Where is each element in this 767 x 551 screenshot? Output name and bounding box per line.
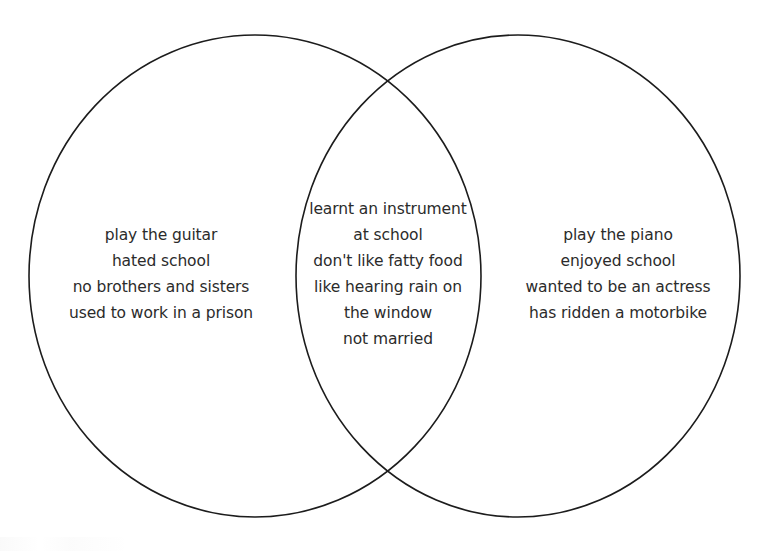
intersection-line: the window <box>292 300 484 326</box>
right-set-line: play the piano <box>496 222 740 248</box>
intersection-line: not married <box>292 326 484 352</box>
intersection-line: like hearing rain on <box>292 274 484 300</box>
right-set-line: enjoyed school <box>496 248 740 274</box>
left-set-line: used to work in a prison <box>36 300 286 326</box>
right-set-label-group: play the piano enjoyed school wanted to … <box>496 222 740 326</box>
left-set-line: no brothers and sisters <box>36 274 286 300</box>
left-set-line: play the guitar <box>36 222 286 248</box>
left-set-line: hated school <box>36 248 286 274</box>
left-set-label-group: play the guitar hated school no brothers… <box>36 222 286 326</box>
intersection-line: at school <box>292 222 484 248</box>
venn-diagram: play the guitar hated school no brothers… <box>0 0 767 551</box>
intersection-label-group: learnt an instrument at school don't lik… <box>292 196 484 352</box>
right-set-line: wanted to be an actress <box>496 274 740 300</box>
intersection-line: learnt an instrument <box>292 196 484 222</box>
intersection-line: don't like fatty food <box>292 248 484 274</box>
right-set-line: has ridden a motorbike <box>496 300 740 326</box>
